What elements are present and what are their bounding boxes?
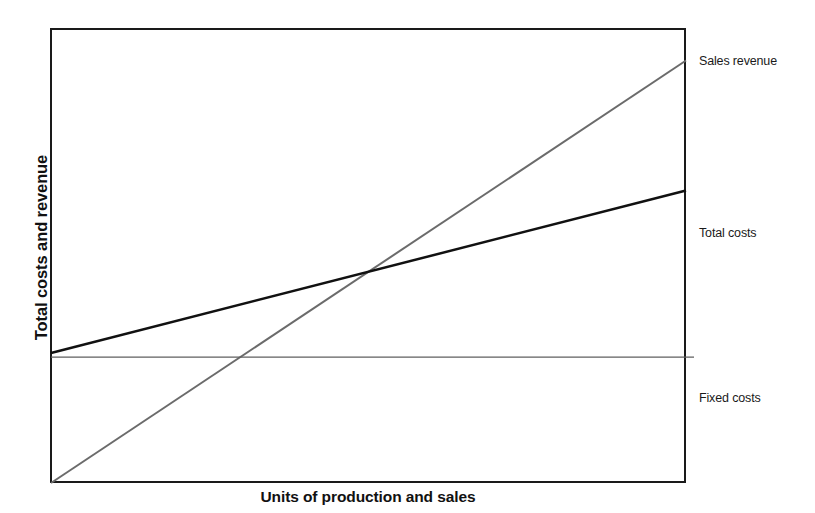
series-label-sales-revenue: Sales revenue (699, 54, 777, 68)
plot-area-frame (50, 28, 686, 483)
breakeven-chart-page: Total costs and revenue Units of product… (0, 0, 815, 513)
series-label-total-costs: Total costs (699, 226, 756, 240)
x-axis-title: Units of production and sales (50, 488, 686, 506)
series-label-fixed-costs: Fixed costs (699, 391, 761, 405)
y-axis-title: Total costs and revenue (32, 123, 51, 373)
